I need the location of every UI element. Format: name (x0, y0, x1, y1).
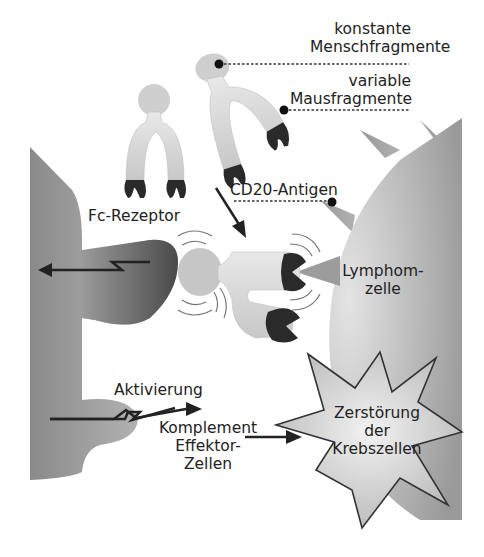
label-line: Komplement (156, 419, 260, 437)
label-line: zelle (338, 280, 428, 298)
variable-region (266, 308, 300, 342)
cell-spike (320, 200, 355, 232)
label-line: Mausfragmente (290, 90, 411, 108)
pointer-dot-variable (280, 106, 289, 115)
label-line: Krebszellen (322, 440, 432, 458)
cell-spike (360, 130, 400, 158)
label-line: variable (290, 72, 411, 90)
arrow-head-right (186, 402, 202, 416)
arrow-head-down (232, 220, 246, 238)
label-variable-fragments: variable Mausfragmente (290, 72, 411, 108)
label-line: Lymphom- (338, 262, 428, 280)
label-line: Zellen (156, 455, 260, 473)
variable-region (166, 180, 186, 198)
label-cancer-destruction: Zerstörung der Krebszellen (322, 404, 432, 458)
bound-antibody (178, 231, 320, 343)
label-constant-fragments: konstante Menschfragmente (310, 20, 411, 56)
variable-region (124, 180, 146, 198)
fc-receptor (82, 240, 178, 325)
label-line: Effektor- (156, 437, 260, 455)
pointer-dot-constant (215, 60, 224, 69)
label-line: der (322, 422, 432, 440)
label-lymphoma-cell: Lymphom- zelle (338, 262, 428, 298)
labeled-antibody (193, 41, 298, 190)
label-activation: Aktivierung (114, 381, 203, 399)
label-line: Menschfragmente (310, 38, 411, 56)
label-complement-effector: Komplement Effektor- Zellen (156, 419, 260, 473)
label-cd20-antigen: CD20-Antigen (230, 181, 338, 199)
free-antibody (124, 84, 186, 198)
label-line: konstante (310, 20, 411, 38)
label-line: Zerstörung (322, 404, 432, 422)
label-fc-receptor: Fc-Rezeptor (88, 207, 180, 225)
